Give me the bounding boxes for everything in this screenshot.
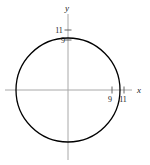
x-tick-label-9: 9: [108, 95, 112, 104]
x-axis-label: x: [136, 85, 141, 95]
y-axis-label: y: [64, 3, 69, 13]
y-tick-label-9: 9: [61, 36, 65, 45]
y-tick-label-11: 11: [55, 26, 63, 35]
circle-graph-figure: x y 9 11 11 9: [0, 0, 150, 165]
x-tick-label-11: 11: [119, 95, 127, 104]
